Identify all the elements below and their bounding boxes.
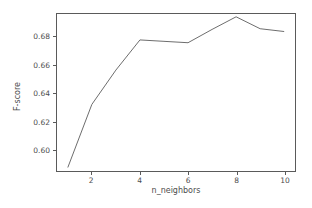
x-tick-mark <box>140 172 141 175</box>
chart-figure: F-score 0.600.620.640.660.68 246810 n_ne… <box>0 0 312 208</box>
line-series-svg <box>57 14 295 171</box>
y-tick-label: 0.68 <box>33 32 50 41</box>
x-tick-label: 2 <box>89 176 94 185</box>
x-axis-label: n_neighbors <box>56 186 296 195</box>
x-tick-mark <box>188 172 189 175</box>
y-tick-label: 0.64 <box>33 89 50 98</box>
x-tick-mark <box>285 172 286 175</box>
x-tick-label: 4 <box>137 176 142 185</box>
x-tick-label: 8 <box>234 176 239 185</box>
f-score-line <box>68 17 284 168</box>
y-tick-label: 0.66 <box>33 60 50 69</box>
x-tick-mark <box>237 172 238 175</box>
x-tick-label: 6 <box>186 176 191 185</box>
x-tick-label: 10 <box>280 176 290 185</box>
y-tick-label: 0.62 <box>33 117 50 126</box>
y-axis-label: F-score <box>13 67 22 127</box>
y-tick-label: 0.60 <box>33 145 50 154</box>
x-tick-mark <box>91 172 92 175</box>
plot-area <box>56 13 296 172</box>
